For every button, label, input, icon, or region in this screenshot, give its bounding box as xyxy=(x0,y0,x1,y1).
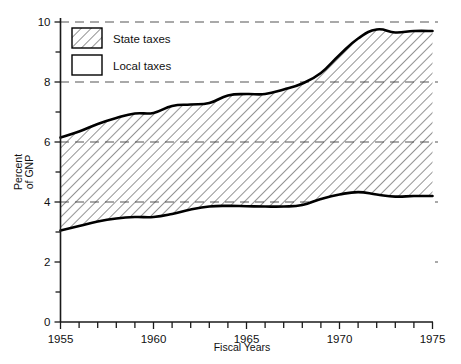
x-tick-label-1970: 1970 xyxy=(327,333,353,345)
x-axis-title: Fiscal Years xyxy=(214,341,271,353)
legend-label-state-taxes: State taxes xyxy=(113,33,171,45)
chart-container: 1086420 19551960196519701975 Fiscal Year… xyxy=(0,0,461,364)
y-tick-label-2: 2 xyxy=(44,256,50,268)
legend-label-local-taxes: Local taxes xyxy=(113,60,171,72)
gnp-tax-area-chart: 1086420 19551960196519701975 Fiscal Year… xyxy=(0,0,461,364)
y-tick-label-10: 10 xyxy=(38,16,51,28)
x-tick-label-1960: 1960 xyxy=(141,333,167,345)
x-axis-ticks xyxy=(61,322,433,329)
y-axis-title: Percent of GNP xyxy=(12,154,35,190)
y-tick-label-6: 6 xyxy=(44,136,50,148)
y-axis-title-line2: of GNP xyxy=(23,155,35,189)
y-tick-label-4: 4 xyxy=(44,196,51,208)
legend-swatch-local-taxes xyxy=(72,55,102,75)
x-tick-label-1955: 1955 xyxy=(48,333,74,345)
x-tick-label-1975: 1975 xyxy=(420,333,446,345)
y-tick-label-8: 8 xyxy=(44,76,50,88)
legend-swatch-state-taxes xyxy=(72,28,102,48)
y-tick-label-0: 0 xyxy=(44,316,50,328)
